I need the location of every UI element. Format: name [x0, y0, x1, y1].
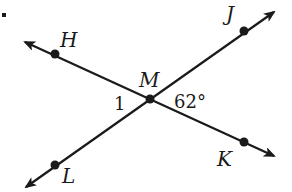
point-m	[146, 95, 155, 104]
point-l	[51, 161, 60, 170]
label-h: H	[59, 28, 78, 52]
label-l: L	[61, 164, 75, 188]
intersecting-lines-diagram: H J M L K 1 62°	[0, 0, 292, 192]
label-j: J	[222, 2, 235, 26]
label-m: M	[138, 68, 160, 92]
angle-62-label: 62°	[174, 91, 206, 112]
point-h	[51, 50, 60, 59]
point-k	[240, 138, 249, 147]
bullet-dot	[2, 13, 6, 17]
label-k: K	[216, 147, 233, 171]
angle-1-label: 1	[114, 93, 125, 114]
point-j	[240, 27, 249, 36]
